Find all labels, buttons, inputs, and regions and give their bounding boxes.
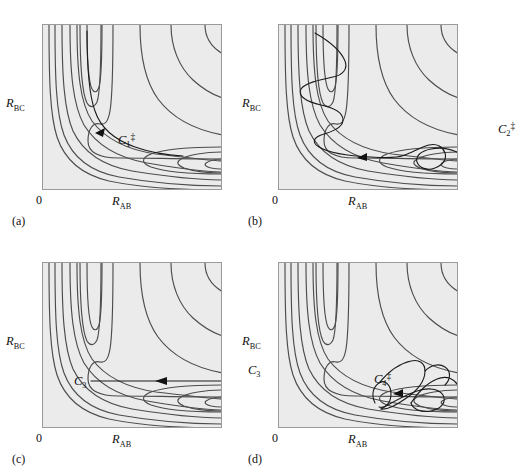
axis-label-x-b: RAB bbox=[348, 194, 367, 211]
transition-state-label-c: C3 bbox=[74, 374, 86, 390]
panel-caption-d: (d) bbox=[248, 452, 262, 467]
axis-label-x-c: RAB bbox=[112, 432, 131, 449]
panel-caption-a: (a) bbox=[12, 214, 25, 229]
axis-label-x-a: RAB bbox=[112, 194, 131, 211]
panel-d: RBC RAB 0 C3 C4‡ (d) bbox=[236, 238, 471, 475]
plot-area-c bbox=[42, 262, 222, 428]
axis-label-y-a: RBC bbox=[6, 96, 25, 113]
panel-b: RBC RAB 0 C2‡ (b) bbox=[236, 0, 471, 238]
contour-plot-b bbox=[279, 25, 458, 190]
origin-label-a: 0 bbox=[36, 193, 42, 208]
plot-area-d bbox=[278, 262, 458, 428]
panel-caption-c: (c) bbox=[12, 452, 25, 467]
reference-label-c3-d: C3 bbox=[248, 364, 260, 379]
contour-plot-c bbox=[43, 263, 222, 428]
transition-state-label-d: C4‡ bbox=[374, 372, 391, 388]
contour-plot-d bbox=[279, 263, 458, 428]
panel-c: RBC RAB 0 C3 (c) bbox=[0, 238, 235, 475]
contour-lines-a bbox=[49, 25, 222, 190]
contour-lines-d bbox=[285, 263, 458, 428]
trajectory-arrowhead-c bbox=[155, 377, 167, 385]
axis-label-x-d: RAB bbox=[348, 432, 367, 449]
panel-caption-b: (b) bbox=[248, 214, 262, 229]
transition-state-label-b: C2‡ bbox=[498, 122, 515, 138]
trajectory-arrowhead-b bbox=[357, 153, 367, 161]
origin-label-c: 0 bbox=[36, 431, 42, 446]
axis-label-y-b: RBC bbox=[242, 96, 261, 113]
axis-label-y-c: RBC bbox=[6, 334, 25, 351]
contour-plot-a bbox=[43, 25, 222, 190]
origin-label-b: 0 bbox=[272, 193, 278, 208]
contour-lines-b bbox=[285, 25, 458, 190]
panel-a: RBC RAB 0 C1‡ (a) bbox=[0, 0, 235, 238]
transition-state-label-a: C1‡ bbox=[118, 133, 135, 149]
axis-label-y-d: RBC bbox=[242, 334, 261, 351]
origin-label-d: 0 bbox=[272, 431, 278, 446]
contour-lines-c bbox=[49, 263, 222, 428]
plot-area-b bbox=[278, 24, 458, 190]
plot-area-a bbox=[42, 24, 222, 190]
